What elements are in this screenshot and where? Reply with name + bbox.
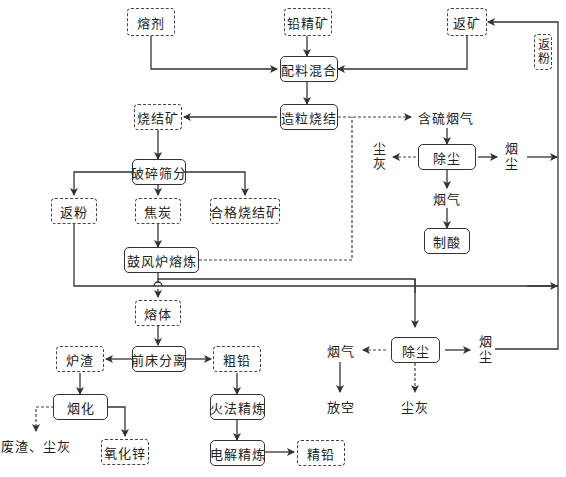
- node-label: 含硫烟气: [418, 108, 474, 127]
- node-label: 破碎筛分: [131, 163, 187, 182]
- node-label: 烟尘: [502, 142, 521, 172]
- node-label: 烟化: [67, 398, 95, 417]
- node-label: 烟气: [433, 189, 461, 208]
- node-label: 尘灰: [370, 142, 389, 172]
- node-forehearth-separation: 前床分离: [132, 346, 186, 372]
- node-flue-gas-1: 烟气: [425, 188, 469, 208]
- node-label: 除尘: [402, 341, 430, 360]
- node-label: 精铅: [307, 444, 335, 463]
- node-label: 铅精矿: [287, 13, 329, 32]
- node-sinter: 烧结矿: [134, 104, 182, 130]
- node-label: 配料混合: [281, 60, 337, 79]
- node-coke: 焦炭: [135, 198, 181, 224]
- node-label: 焦炭: [144, 202, 172, 221]
- node-sulfur-flue-gas: 含硫烟气: [413, 106, 479, 128]
- node-return-ore: 返矿: [447, 8, 487, 36]
- node-return-powder-top: 返粉: [534, 34, 552, 70]
- node-dust-ash-1: 尘灰: [368, 138, 390, 176]
- node-waste-slag-dust: 废渣、尘灰: [0, 434, 72, 456]
- node-label: 造粒烧结: [281, 108, 337, 127]
- node-label: 除尘: [433, 148, 461, 167]
- node-label: 合格烧结矿: [210, 202, 280, 221]
- node-label: 尘灰: [401, 397, 429, 416]
- node-melt: 熔体: [135, 300, 181, 326]
- node-label: 熔剂: [137, 13, 165, 32]
- node-pelletizing-sintering: 造粒烧结: [280, 104, 338, 130]
- node-label: 火法精炼: [210, 398, 266, 417]
- node-acid-making: 制酸: [424, 228, 470, 254]
- node-dust-removal-2: 除尘: [391, 337, 440, 363]
- node-vent: 放空: [320, 396, 362, 416]
- node-label: 鼓风炉熔炼: [127, 251, 197, 270]
- node-fire-refining: 火法精炼: [210, 394, 265, 420]
- node-label: 熔体: [144, 304, 172, 323]
- node-blast-furnace-smelting: 鼓风炉熔炼: [124, 247, 199, 273]
- node-fume-dust-2: 烟尘: [474, 331, 496, 369]
- node-dust-removal-1: 除尘: [418, 144, 476, 170]
- node-label: 前床分离: [131, 350, 187, 369]
- node-label: 废渣、尘灰: [1, 436, 71, 455]
- node-batching-mixing: 配料混合: [280, 56, 338, 82]
- node-label: 电解精炼: [210, 444, 266, 463]
- node-label: 烧结矿: [137, 108, 179, 127]
- node-lead-concentrate: 铅精矿: [284, 8, 332, 36]
- node-fuming: 烟化: [53, 394, 108, 420]
- node-furnace-slag: 炉渣: [56, 346, 104, 372]
- node-flue-gas-2: 烟气: [320, 340, 362, 360]
- node-crude-lead: 粗铅: [213, 346, 261, 372]
- node-label: 制酸: [433, 232, 461, 251]
- node-crushing-screening: 破碎筛分: [132, 159, 186, 185]
- node-label: 烟气: [327, 341, 355, 360]
- node-dust-ash-2: 尘灰: [394, 396, 436, 416]
- node-label: 返粉: [535, 38, 552, 66]
- node-label: 放空: [327, 397, 355, 416]
- node-qualified-sinter: 合格烧结矿: [210, 198, 280, 224]
- node-label: 氧化锌: [104, 443, 146, 462]
- node-zinc-oxide: 氧化锌: [101, 439, 149, 465]
- node-label: 炉渣: [66, 350, 94, 369]
- node-label: 返矿: [453, 13, 481, 32]
- node-fume-dust-1: 烟尘: [500, 138, 522, 176]
- node-return-powder: 返粉: [51, 198, 97, 224]
- node-refined-lead: 精铅: [297, 440, 345, 466]
- node-label: 返粉: [60, 202, 88, 221]
- node-flux: 熔剂: [127, 8, 175, 36]
- node-label: 烟尘: [476, 335, 495, 365]
- node-label: 粗铅: [223, 350, 251, 369]
- node-electrolytic-refining: 电解精炼: [210, 440, 265, 466]
